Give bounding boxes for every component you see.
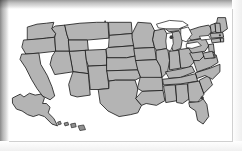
florida xyxy=(189,99,209,124)
state-shapes-group xyxy=(20,18,227,124)
image-frame-right-edge xyxy=(232,0,242,151)
arizona xyxy=(69,72,90,97)
map-dot-michigan xyxy=(170,35,174,39)
massachusetts xyxy=(211,33,224,39)
minnesota xyxy=(132,22,154,48)
lake-ontario xyxy=(199,35,210,40)
south-dakota xyxy=(109,34,134,48)
colorado xyxy=(86,49,107,66)
map-canvas: Gray map of the United States showing al… xyxy=(9,9,233,142)
california xyxy=(20,53,55,100)
alabama xyxy=(176,84,189,104)
oklahoma xyxy=(107,70,141,81)
hawaii-inset xyxy=(58,121,86,130)
map-dot-montana-top xyxy=(104,20,106,22)
rhode-island xyxy=(221,38,224,42)
mississippi xyxy=(164,85,177,103)
hawaii-maui xyxy=(71,123,77,128)
oregon xyxy=(22,37,56,54)
new-hampshire xyxy=(215,23,221,32)
us-map-image: Gray map of the United States showing al… xyxy=(9,9,233,142)
connecticut xyxy=(212,38,221,43)
map-dot-georgia-coast xyxy=(201,96,204,99)
screenshot-root: Gray map of the United States showing al… xyxy=(0,0,242,151)
image-frame-bottom-edge xyxy=(0,141,242,151)
montana xyxy=(65,22,109,40)
hawaii-oahu xyxy=(64,122,69,126)
lake-superior xyxy=(156,20,188,28)
arkansas xyxy=(138,77,163,91)
iowa xyxy=(134,48,156,61)
new-mexico xyxy=(88,65,109,89)
maryland xyxy=(203,51,214,58)
hawaii-big-island xyxy=(78,125,85,131)
wyoming xyxy=(69,40,89,51)
nebraska xyxy=(106,46,136,58)
map-dot-massachusetts xyxy=(219,34,221,36)
louisiana xyxy=(136,90,165,105)
kansas xyxy=(107,56,138,71)
hawaii-kauai xyxy=(58,121,62,125)
